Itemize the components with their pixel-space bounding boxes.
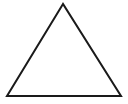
triangle-shape: [7, 4, 121, 96]
triangle-diagram: [0, 0, 128, 104]
diagram-canvas: [0, 0, 128, 104]
